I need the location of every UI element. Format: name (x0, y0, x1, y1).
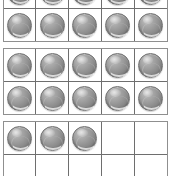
ten-frame-cell[interactable] (36, 9, 69, 41)
ten-frame-cell[interactable] (4, 82, 37, 114)
ten-frame-cell[interactable] (135, 155, 167, 176)
ten-frame-cell[interactable] (69, 155, 102, 176)
ten-frame-cell[interactable] (36, 122, 69, 154)
ten-frame-cell[interactable] (102, 82, 135, 114)
gray-counter-chip[interactable] (40, 126, 65, 151)
ten-frame-cell[interactable] (102, 9, 135, 41)
gray-counter-chip[interactable] (40, 53, 65, 78)
ten-frame-cell[interactable] (102, 122, 135, 154)
ten-frames-canvas (0, 0, 170, 176)
ten-frame-2 (3, 48, 168, 115)
ten-frame-cell[interactable] (135, 122, 167, 154)
ten-frame-cell[interactable] (69, 82, 102, 114)
gray-counter-chip[interactable] (138, 13, 163, 38)
ten-frame-cell[interactable] (4, 49, 37, 81)
ten-frame-cell[interactable] (4, 0, 37, 8)
gray-counter-chip[interactable] (7, 126, 32, 151)
gray-counter-chip[interactable] (105, 13, 130, 38)
ten-frame-cell[interactable] (36, 49, 69, 81)
gray-counter-chip[interactable] (138, 53, 163, 78)
ten-frame-cell[interactable] (4, 155, 37, 176)
ten-frame-cell[interactable] (4, 122, 37, 154)
ten-frame-cell[interactable] (36, 155, 69, 176)
gray-counter-chip[interactable] (7, 13, 32, 38)
gray-counter-chip[interactable] (138, 0, 163, 5)
ten-frame-cell[interactable] (69, 9, 102, 41)
ten-frame-2-row-bottom (4, 82, 167, 114)
gray-counter-chip[interactable] (72, 126, 97, 151)
gray-counter-chip[interactable] (72, 0, 97, 5)
gray-counter-chip[interactable] (7, 0, 32, 5)
ten-frame-cell[interactable] (69, 122, 102, 154)
gray-counter-chip[interactable] (72, 13, 97, 38)
ten-frame-cell[interactable] (4, 9, 37, 41)
ten-frame-cell[interactable] (36, 82, 69, 114)
ten-frame-cell[interactable] (36, 0, 69, 8)
ten-frame-3-row-bottom (4, 155, 167, 176)
ten-frame-cell[interactable] (69, 49, 102, 81)
ten-frame-cell[interactable] (135, 0, 167, 8)
gray-counter-chip[interactable] (105, 53, 130, 78)
ten-frame-3-row-top (4, 122, 167, 155)
gray-counter-chip[interactable] (7, 86, 32, 111)
ten-frame-2-row-top (4, 49, 167, 82)
gray-counter-chip[interactable] (40, 0, 65, 5)
ten-frame-cell[interactable] (135, 49, 167, 81)
gray-counter-chip[interactable] (72, 53, 97, 78)
gray-counter-chip[interactable] (138, 86, 163, 111)
gray-counter-chip[interactable] (72, 86, 97, 111)
ten-frame-1 (3, 0, 168, 42)
ten-frame-cell[interactable] (102, 155, 135, 176)
ten-frame-1-row-top (4, 0, 167, 9)
ten-frame-cell[interactable] (102, 49, 135, 81)
ten-frame-1-row-bottom (4, 9, 167, 41)
gray-counter-chip[interactable] (105, 86, 130, 111)
gray-counter-chip[interactable] (105, 0, 130, 5)
gray-counter-chip[interactable] (7, 53, 32, 78)
gray-counter-chip[interactable] (40, 13, 65, 38)
ten-frames-stack (0, 0, 170, 176)
ten-frame-cell[interactable] (135, 82, 167, 114)
ten-frame-cell[interactable] (102, 0, 135, 8)
ten-frame-cell[interactable] (135, 9, 167, 41)
ten-frame-3 (3, 121, 168, 176)
gray-counter-chip[interactable] (40, 86, 65, 111)
ten-frame-cell[interactable] (69, 0, 102, 8)
